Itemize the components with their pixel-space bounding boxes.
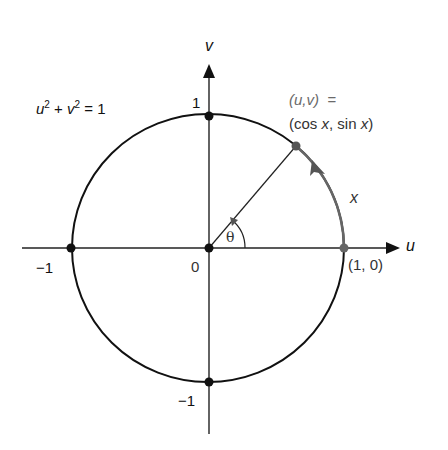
dot-left: [67, 244, 76, 253]
point-label-close: ): [368, 115, 373, 132]
radius-line: [209, 146, 296, 248]
dot-right: [340, 244, 349, 253]
equation-plus: +: [50, 100, 67, 117]
arc-length-label: x: [350, 190, 358, 206]
point-label-x1: x: [322, 115, 330, 132]
unit-circle-diagram: v u 1 −1 −1 0 (1, 0) u2 + v2 = 1 (u,v) =…: [0, 0, 448, 450]
tick-label-left: −1: [36, 260, 53, 275]
tick-label-top: 1: [192, 95, 200, 110]
point-label-open: (cos: [289, 115, 322, 132]
point-label-line2: (cos x, sin x): [289, 116, 373, 131]
dot-bottom: [205, 378, 214, 387]
dot-top: [205, 112, 214, 121]
tick-label-right: (1, 0): [348, 257, 383, 272]
dot-point-p: [292, 142, 301, 151]
v-axis-label: v: [205, 38, 213, 54]
angle-theta-label: θ: [226, 230, 234, 244]
circle-equation: u2 + v2 = 1: [36, 100, 106, 116]
equation-rhs: = 1: [80, 100, 105, 117]
point-label-line1: (u,v) =: [289, 92, 336, 107]
v-axis-arrow-icon: [203, 64, 215, 78]
tick-label-bottom: −1: [178, 393, 195, 408]
dot-origin: [205, 244, 214, 253]
u-axis-label: u: [406, 238, 415, 254]
origin-label: 0: [191, 259, 199, 274]
diagram-graphics: [0, 0, 448, 450]
arc-x: [296, 146, 344, 248]
point-label-mid: , sin: [329, 115, 361, 132]
u-axis-arrow-icon: [386, 242, 400, 254]
arc-arrow-icon: [310, 160, 325, 176]
equation-v: v: [67, 100, 75, 117]
